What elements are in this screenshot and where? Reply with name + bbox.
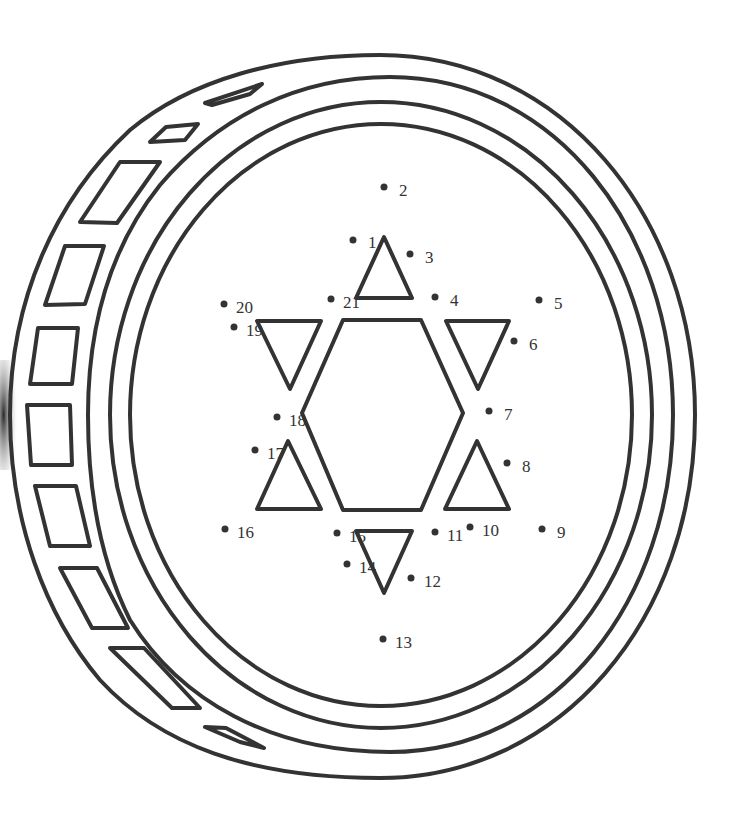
dot-7: 7	[486, 405, 514, 424]
coin-face-ring-outer	[110, 102, 652, 728]
star-triangle-upper-left	[257, 321, 321, 389]
dot-label: 8	[522, 457, 531, 476]
dot-17: 17	[252, 444, 285, 463]
dot-marker	[539, 526, 546, 533]
dot-9: 9	[539, 523, 566, 542]
dot-marker	[381, 184, 388, 191]
coin-drawing: 123456789101112131415161718192021	[0, 0, 745, 826]
dot-marker	[334, 530, 341, 537]
dot-21: 21	[328, 293, 361, 312]
dot-label: 14	[359, 558, 377, 577]
coin-edge-inner-line	[88, 77, 673, 752]
dot-marker	[511, 338, 518, 345]
dot-marker	[231, 324, 238, 331]
dot-12: 12	[408, 572, 442, 591]
dot-11: 11	[432, 526, 464, 545]
numbered-dots: 123456789101112131415161718192021	[221, 181, 566, 652]
dot-13: 13	[380, 633, 413, 652]
dot-label: 17	[267, 444, 285, 463]
coin-outer-edge	[10, 55, 695, 778]
dot-marker	[432, 529, 439, 536]
dot-14: 14	[344, 558, 377, 577]
dot-1: 1	[350, 233, 377, 252]
star-hexagon	[302, 320, 463, 510]
dot-5: 5	[536, 294, 563, 313]
dot-label: 15	[349, 527, 366, 546]
star-triangle-upper-right	[446, 321, 509, 389]
star-triangle-lower-right	[445, 441, 509, 509]
dot-marker	[222, 526, 229, 533]
dot-label: 20	[236, 298, 253, 317]
dot-4: 4	[432, 291, 460, 310]
dot-19: 19	[231, 321, 264, 340]
dot-10: 10	[467, 521, 500, 540]
dot-label: 19	[246, 321, 263, 340]
dot-marker	[274, 414, 281, 421]
dot-marker	[221, 301, 228, 308]
dot-2: 2	[381, 181, 408, 200]
dot-label: 10	[482, 521, 499, 540]
coin-face-ring-middle	[130, 124, 632, 706]
dot-label: 4	[450, 291, 459, 310]
dot-16: 16	[222, 523, 255, 542]
dot-label: 2	[399, 181, 408, 200]
dot-8: 8	[504, 457, 531, 476]
dot-marker	[486, 408, 493, 415]
dot-marker	[380, 636, 387, 643]
dot-marker	[432, 294, 439, 301]
dot-label: 5	[554, 294, 563, 313]
dot-marker	[408, 575, 415, 582]
dot-20: 20	[221, 298, 254, 317]
star-triangle-top	[356, 237, 412, 298]
dot-marker	[407, 251, 414, 258]
dot-label: 3	[425, 248, 434, 267]
dot-marker	[504, 460, 511, 467]
dot-marker	[344, 561, 351, 568]
dot-marker	[328, 296, 335, 303]
dot-label: 13	[395, 633, 412, 652]
dot-label: 6	[529, 335, 538, 354]
dot-3: 3	[407, 248, 434, 267]
dot-label: 18	[289, 411, 306, 430]
dot-marker	[350, 237, 357, 244]
dot-18: 18	[274, 411, 307, 430]
dot-label: 7	[504, 405, 513, 424]
dot-15: 15	[334, 527, 367, 546]
dot-marker	[252, 447, 259, 454]
dot-label: 12	[424, 572, 441, 591]
dot-label: 11	[447, 526, 463, 545]
dot-marker	[467, 524, 474, 531]
dot-marker	[536, 297, 543, 304]
dot-6: 6	[511, 335, 538, 354]
dot-label: 1	[368, 233, 377, 252]
dot-label: 9	[557, 523, 566, 542]
dot-label: 21	[343, 293, 360, 312]
dot-label: 16	[237, 523, 254, 542]
